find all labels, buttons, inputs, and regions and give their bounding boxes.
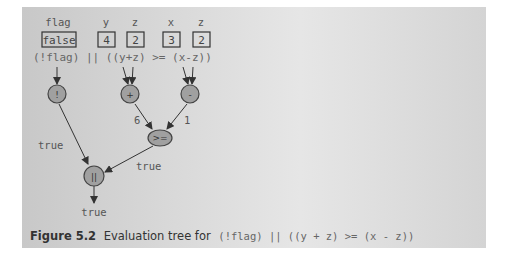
var-box-x: 3 — [163, 32, 180, 47]
edge-z-to-minus — [192, 67, 193, 84]
var-name-flag: flag — [45, 16, 70, 28]
edge-not-to-or — [59, 104, 88, 164]
var-value-z2: 2 — [198, 34, 205, 47]
svg-text:!: ! — [55, 90, 59, 100]
var-name-x: x — [168, 16, 174, 28]
label-gte-result: true — [136, 160, 161, 172]
var-box-flag: false — [42, 32, 76, 47]
label-final-result: true — [81, 206, 106, 218]
node-or: || — [84, 166, 104, 186]
var-name-y: y — [103, 16, 109, 28]
var-box-y: 4 — [98, 32, 115, 47]
figure-number: Figure 5.2 — [30, 229, 96, 243]
edge-y-to-plus — [123, 67, 128, 84]
node-minus: - — [181, 85, 199, 103]
node-plus: + — [121, 85, 139, 103]
svg-text:+: + — [126, 90, 134, 100]
var-value-y: 4 — [103, 34, 110, 47]
label-minus-result: 1 — [184, 114, 190, 126]
evaluation-tree: flag y z x z false 4 2 3 2 (!flag) || ((… — [0, 0, 505, 257]
label-not-result: true — [38, 139, 63, 151]
node-gte: >= — [148, 130, 172, 146]
node-not: ! — [48, 85, 66, 103]
caption-text: Evaluation tree for — [104, 229, 211, 243]
caption-code: (!flag) || ((y + z) >= (x - z)) — [218, 230, 414, 242]
var-name-z: z — [132, 16, 138, 28]
var-box-z2: 2 — [193, 32, 210, 47]
svg-text:-: - — [188, 90, 191, 100]
var-box-z: 2 — [127, 32, 144, 47]
figure-caption: Figure 5.2 Evaluation tree for (!flag) |… — [30, 229, 414, 243]
edge-z-to-plus — [132, 67, 133, 84]
expression-text: (!flag) || ((y+z) >= (x-z)) — [33, 51, 212, 64]
svg-text:>=: >= — [152, 133, 167, 143]
edge-x-to-minus — [183, 67, 188, 84]
var-value-z: 2 — [132, 34, 139, 47]
svg-text:||: || — [91, 172, 97, 182]
var-name-z2: z — [198, 16, 204, 28]
label-plus-result: 6 — [134, 114, 140, 126]
var-value-flag: false — [42, 34, 75, 47]
var-value-x: 3 — [168, 34, 175, 47]
